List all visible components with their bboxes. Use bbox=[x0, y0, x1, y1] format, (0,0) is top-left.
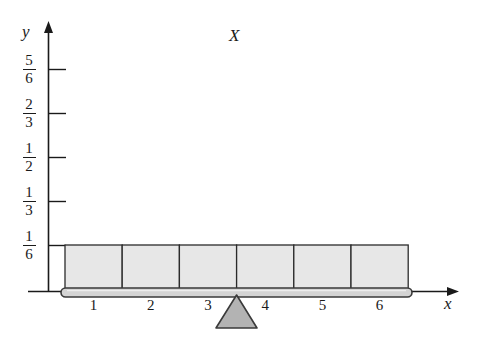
y-tick-numerator: 1 bbox=[14, 185, 44, 200]
y-tick-numerator: 5 bbox=[14, 53, 44, 68]
y-tick-denominator: 3 bbox=[14, 115, 44, 130]
y-tick-label-1-3: 1 3 bbox=[14, 185, 44, 219]
y-tick-denominator: 2 bbox=[14, 159, 44, 174]
x-tick-label-4: 4 bbox=[253, 298, 277, 313]
bar-1 bbox=[65, 245, 122, 290]
y-tick-label-1-2: 1 2 bbox=[14, 141, 44, 175]
bar-5 bbox=[294, 245, 351, 290]
y-tick-label-2-3: 2 3 bbox=[14, 97, 44, 131]
bar-2 bbox=[122, 245, 179, 290]
y-tick-denominator: 6 bbox=[14, 247, 44, 262]
y-axis bbox=[44, 21, 53, 292]
y-tick-denominator: 3 bbox=[14, 203, 44, 218]
y-tick-numerator: 1 bbox=[14, 229, 44, 244]
bar-6 bbox=[351, 245, 408, 290]
y-tick-marks bbox=[49, 70, 67, 246]
y-tick-label-1-6: 1 6 bbox=[14, 229, 44, 263]
fulcrum-triangle-icon bbox=[216, 295, 257, 328]
y-axis-label: y bbox=[22, 23, 30, 40]
x-tick-label-1: 1 bbox=[82, 298, 106, 313]
bar-3 bbox=[179, 245, 236, 290]
bar-4 bbox=[237, 245, 294, 290]
y-tick-denominator: 6 bbox=[14, 71, 44, 86]
x-tick-label-2: 2 bbox=[139, 298, 163, 313]
bar-series bbox=[65, 245, 408, 290]
x-tick-label-3: 3 bbox=[196, 298, 220, 313]
x-tick-label-5: 5 bbox=[310, 298, 334, 313]
chart-title: X bbox=[229, 27, 239, 44]
y-tick-numerator: 1 bbox=[14, 141, 44, 156]
plot-canvas bbox=[0, 0, 481, 344]
probability-histogram-figure: X y x 5 6 2 3 1 2 1 3 1 6 1 2 3 4 5 6 bbox=[0, 0, 481, 344]
x-axis-label: x bbox=[444, 295, 452, 312]
y-tick-numerator: 2 bbox=[14, 97, 44, 112]
y-tick-label-5-6: 5 6 bbox=[14, 53, 44, 87]
x-tick-label-6: 6 bbox=[368, 298, 392, 313]
